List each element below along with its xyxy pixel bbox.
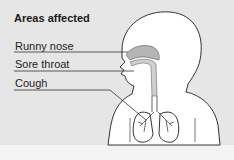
right-lung: [159, 112, 179, 142]
label-sore-throat: Sore throat: [15, 58, 69, 70]
left-lung: [133, 112, 153, 142]
label-cough: Cough: [15, 77, 47, 89]
label-runny-nose: Runny nose: [15, 40, 74, 52]
diagram-title: Areas affected: [14, 12, 90, 24]
